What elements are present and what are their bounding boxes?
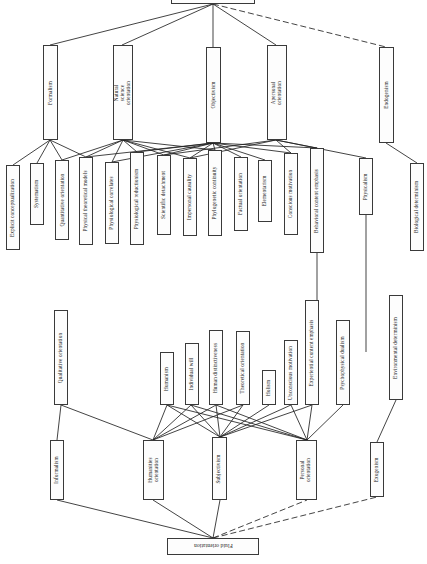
edge-endogenism-biodeterm xyxy=(386,143,417,163)
diagram-canvas: Rigid orientation Formalism Natural scie… xyxy=(0,0,427,564)
edge-natsci-physiocorr xyxy=(112,140,123,162)
node-label: Endogenism xyxy=(384,81,390,108)
node-label: Behavioral content emphasis xyxy=(314,169,320,233)
node-root-rigid-orientation[interactable]: Rigid orientation xyxy=(171,0,255,4)
node-objectivism[interactable]: Objectivism xyxy=(206,47,221,143)
node-label: Conscious motivation xyxy=(288,170,294,218)
edge-apersonal-conscious xyxy=(276,140,291,153)
node-label: Physiological correlates xyxy=(109,176,115,229)
node-label: Apersonal orientation xyxy=(271,80,283,104)
edge-fluid-informalism xyxy=(57,500,213,538)
node-label: Subjectivism xyxy=(217,454,223,483)
node-individual-will[interactable]: Individual will xyxy=(185,343,199,405)
node-exogenism[interactable]: Exogenism xyxy=(370,442,384,497)
node-label: Humanities orientation xyxy=(148,457,160,482)
edge-root-apersonal xyxy=(213,4,276,45)
edge-subjectivism-unconscious xyxy=(220,405,291,437)
node-conscious-motivation[interactable]: Conscious motivation xyxy=(284,153,298,235)
node-endogenism[interactable]: Endogenism xyxy=(379,47,394,143)
node-biological-determinism[interactable]: Biological determinism xyxy=(410,163,424,251)
node-label: Holism xyxy=(266,379,272,395)
node-label: Experiential content emphasis xyxy=(309,319,315,386)
edge-personal-unconscious xyxy=(291,405,307,440)
node-elementarism[interactable]: Elementarism xyxy=(258,160,272,222)
edge-subjectivism-humanism xyxy=(167,405,220,437)
node-theoretical-orientation[interactable]: Theoretical orientation xyxy=(236,331,250,405)
edge-apersonal-behavioral xyxy=(276,140,317,148)
node-human-distinctiveness[interactable]: Human distinctiveness xyxy=(209,330,223,405)
node-label: Informalism xyxy=(54,456,60,483)
node-humanism[interactable]: Humanism xyxy=(160,352,174,405)
edge-subjectivism-humdistinct xyxy=(216,405,220,437)
edge-objectivism-physioreduct xyxy=(137,143,213,152)
edge-humanities-theoretical xyxy=(153,405,243,440)
node-unconscious-motivation[interactable]: Unconscious motivation xyxy=(284,340,298,405)
edge-natsci-phylogenetic xyxy=(123,140,215,150)
node-label: Exogenism xyxy=(374,457,380,482)
node-systematism[interactable]: Systematism xyxy=(30,163,44,225)
edge-formalism-explicit xyxy=(13,140,50,165)
edge-root-endogenism xyxy=(213,4,386,47)
node-explicit-conceptualization[interactable]: Explicit conceptualization xyxy=(6,165,20,250)
node-physiological-correlates[interactable]: Physiological correlates xyxy=(105,162,119,244)
node-phylogenetic-continuity[interactable]: Phylogenetic continuity xyxy=(208,150,222,236)
node-natural-science-orientation[interactable]: Natural science orientation xyxy=(113,45,133,140)
node-psychophysical-dualism[interactable]: Psychophysical dualism xyxy=(336,320,350,405)
node-label: Systematism xyxy=(34,180,40,208)
node-physical-theoretical-models[interactable]: Physical theoretical models xyxy=(79,157,93,245)
node-label: Natural science orientation xyxy=(114,80,132,104)
node-subjectivism[interactable]: Subjectivism xyxy=(212,437,227,500)
edge-objectivism-phylogenetic xyxy=(213,143,215,150)
node-label: Personal orientation xyxy=(301,458,313,482)
edge-personal-humdistinct xyxy=(216,405,307,440)
node-formalism[interactable]: Formalism xyxy=(43,45,58,140)
node-qualitative-orientation[interactable]: Qualitative orientation xyxy=(54,310,68,405)
node-holism[interactable]: Holism xyxy=(262,370,276,405)
node-root-fluid-orientation[interactable]: Fluid orientation xyxy=(167,538,259,555)
edge-natsci-phystheory xyxy=(86,140,123,157)
edge-subjectivism-holism xyxy=(220,405,269,437)
node-humanities-orientation[interactable]: Humanities orientation xyxy=(143,440,164,500)
node-quantitative-orientation[interactable]: Quantitative orientation xyxy=(55,160,69,240)
edge-exogenism-envdeterm xyxy=(377,400,396,442)
edge-formalism-quantitative xyxy=(50,140,62,160)
node-physiological-reductionism[interactable]: Physiological reductionism xyxy=(130,152,144,245)
node-environmental-determinism[interactable]: Environmental determinism xyxy=(389,295,403,400)
node-label: Quantitative orientation xyxy=(59,173,65,226)
edge-humanities-humanism xyxy=(153,405,167,440)
edge-subjectivism-indwill xyxy=(191,405,220,437)
edge-fluid-exogenism xyxy=(213,497,377,538)
edge-formalism-systematism xyxy=(37,140,50,163)
node-label: Unconscious motivation xyxy=(288,346,294,400)
edge-humanities-qualitative xyxy=(61,405,153,440)
node-label: Explicit conceptualization xyxy=(10,178,16,236)
edge-humanities-humdistinct xyxy=(153,405,216,440)
node-factual-orientation[interactable]: Factual orientation xyxy=(234,157,248,231)
node-physicalism[interactable]: Physicalism xyxy=(359,158,373,215)
node-behavioral-content-emphasis[interactable]: Behavioral content emphasis xyxy=(310,148,324,253)
node-label: Theoretical orientation xyxy=(240,343,246,394)
node-label: Human distinctiveness xyxy=(213,342,219,392)
edge-personal-experiential xyxy=(307,405,312,440)
node-scientific-detachment[interactable]: Scientific detachment xyxy=(157,155,171,235)
node-label: Physicalism xyxy=(363,173,369,200)
edge-root-formalism xyxy=(50,4,213,45)
edge-objectivism-behavioral xyxy=(213,143,317,148)
node-label: Humanism xyxy=(164,367,170,391)
node-label: Psychophysical dualism xyxy=(340,336,346,389)
node-impersonal-causality[interactable]: Impersonal causality xyxy=(183,158,197,236)
node-label: Fluid orientation xyxy=(194,543,233,549)
node-personal-orientation[interactable]: Personal orientation xyxy=(296,440,317,500)
edge-objectivism-phystheory xyxy=(86,143,213,157)
edge-personal-indwill xyxy=(191,405,307,440)
edge-humanities-indwill xyxy=(153,405,191,440)
node-label: Phylogenetic continuity xyxy=(212,167,218,220)
edge-fluid-subjectivism xyxy=(213,500,220,538)
node-apersonal-orientation[interactable]: Apersonal orientation xyxy=(267,45,287,140)
node-label: Objectivism xyxy=(211,81,217,108)
edge-informalism-qualitative xyxy=(57,405,61,440)
node-label: Individual will xyxy=(189,358,195,391)
node-informalism[interactable]: Informalism xyxy=(50,440,64,500)
edge-personal-humanism xyxy=(167,405,307,440)
node-experiential-content-emphasis[interactable]: Experiential content emphasis xyxy=(305,300,319,405)
